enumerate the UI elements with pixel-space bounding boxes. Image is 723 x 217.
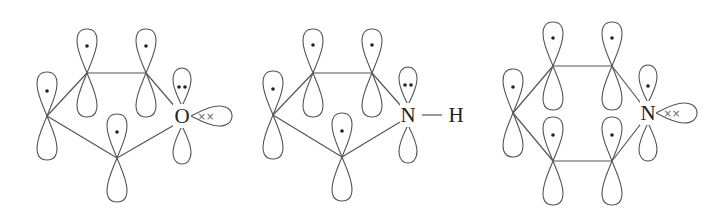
electron-dot-icon xyxy=(45,89,49,93)
pyrrole-p-orbital-c5 xyxy=(332,113,352,201)
pyrrole-p-orbital-c2 xyxy=(263,71,283,159)
electron-dot-icon xyxy=(551,36,555,40)
electron-dot-icon xyxy=(115,130,119,134)
electron-dot-icon xyxy=(271,87,275,91)
electron-dot-icon xyxy=(409,83,413,87)
pyridine-structure: N ×× xyxy=(503,22,697,205)
electron-dot-icon xyxy=(403,83,407,87)
pyrrole-nitrogen-orbitals: N xyxy=(399,67,417,163)
pyridine-ring-bonds xyxy=(513,66,643,161)
pyridine-nitrogen-orbitals: N ×× xyxy=(639,65,697,161)
electron-dot-icon xyxy=(340,129,344,133)
electron-dot-icon xyxy=(610,133,614,137)
lone-pair-crosses: ×× xyxy=(198,111,215,122)
electron-dot-icon xyxy=(85,44,89,48)
nitrogen-atom-label: N xyxy=(400,103,415,127)
furan-p-orbital-c5 xyxy=(107,114,127,202)
electron-dot-icon xyxy=(511,85,515,89)
hydrogen-atom-label: H xyxy=(448,103,463,127)
electron-dot-icon xyxy=(144,44,148,48)
furan-p-orbital-c2 xyxy=(37,72,57,160)
pyridine-p-orbital-c2 xyxy=(503,69,523,157)
pyrrole-structure: N H xyxy=(263,29,464,201)
furan-oxygen-orbitals: O ×× xyxy=(173,68,232,164)
electron-dot-icon xyxy=(183,85,187,89)
lone-pair-crosses: ×× xyxy=(664,108,681,119)
electron-dot-icon xyxy=(551,133,555,137)
heterocycle-orbital-diagram: O ×× xyxy=(0,0,723,217)
electron-dot-icon xyxy=(646,84,650,88)
electron-dot-icon xyxy=(610,36,614,40)
furan-structure: O ×× xyxy=(37,29,232,202)
oxygen-atom-label: O xyxy=(174,104,189,128)
nitrogen-atom-label: N xyxy=(640,101,655,125)
electron-dot-icon xyxy=(311,43,315,47)
electron-dot-icon xyxy=(177,85,181,89)
electron-dot-icon xyxy=(370,43,374,47)
